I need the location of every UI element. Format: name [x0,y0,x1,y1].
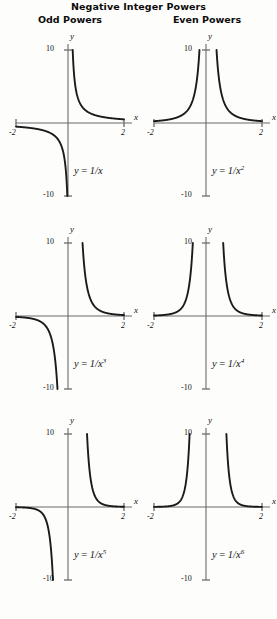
x-tick-label-min: -2 [147,321,154,330]
curve-branch [217,50,262,121]
x-tick-label-min: -2 [9,128,16,137]
y-tick-label-max: 10 [184,428,192,437]
equation-label: y = 1/x5 [74,549,106,560]
y-tick-label-max: 10 [46,44,54,53]
y-axis-label: y [208,31,212,41]
x-axis-label: x [272,305,276,315]
plot-svg [138,28,277,218]
y-tick-label-min: -10 [43,383,54,392]
curve-branch [16,317,57,389]
equation-label: y = 1/x [74,165,103,176]
y-tick-label-max: 10 [184,237,192,246]
curve-branch [154,243,193,316]
equation-label: y = 1/x3 [74,358,106,369]
equation-label: y = 1/x2 [212,165,244,176]
curve-branch [223,243,262,316]
column-heading-even: Even Powers [147,14,267,25]
curve-branch [16,127,67,196]
plot-cell: xy-2210-10y = 1/x3 [0,221,139,411]
x-tick-label-max: 2 [259,321,263,330]
page-title: Negative Integer Powers [0,1,277,12]
plot-cell: xy-2210-10y = 1/x [0,28,139,218]
x-tick-label-min: -2 [147,512,154,521]
column-heading-odd: Odd Powers [10,14,130,25]
curve-branch [154,50,199,121]
y-axis-label: y [208,224,212,234]
curve-branch [154,434,190,507]
plot-cell: xy-2210-10y = 1/x4 [138,221,277,411]
curve-branch [16,507,53,580]
plot-cell: xy-2210-10y = 1/x2 [138,28,277,218]
plot-svg [0,28,139,218]
plot-svg [138,412,277,602]
y-tick-label-min: -10 [181,190,192,199]
y-axis-label: y [70,415,74,425]
curve-branch [83,243,124,315]
y-tick-label-min: -10 [181,383,192,392]
x-tick-label-max: 2 [259,512,263,521]
y-tick-label-min: -10 [43,190,54,199]
x-tick-label-max: 2 [121,321,125,330]
x-tick-label-max: 2 [121,512,125,521]
y-tick-label-max: 10 [46,237,54,246]
plot-svg [138,221,277,411]
x-axis-label: x [272,496,276,506]
x-tick-label-max: 2 [259,128,263,137]
equation-label: y = 1/x6 [212,549,244,560]
plot-svg [0,221,139,411]
figure-negative-integer-powers: Negative Integer Powers Odd Powers Even … [0,0,277,619]
curve-branch [87,434,124,507]
plot-svg [0,412,139,602]
x-tick-label-min: -2 [9,321,16,330]
y-axis-label: y [70,31,74,41]
plot-cell: xy-2210-10y = 1/x6 [138,412,277,602]
y-tick-label-min: -10 [181,574,192,583]
y-axis-label: y [70,224,74,234]
y-tick-label-max: 10 [46,428,54,437]
x-tick-label-max: 2 [121,128,125,137]
y-tick-label-max: 10 [184,44,192,53]
y-axis-label: y [208,415,212,425]
x-axis-label: x [272,112,276,122]
y-tick-label-min: -10 [43,574,54,583]
x-tick-label-min: -2 [9,512,16,521]
curve-branch [226,434,262,507]
x-tick-label-min: -2 [147,128,154,137]
plot-cell: xy-2210-10y = 1/x5 [0,412,139,602]
equation-label: y = 1/x4 [212,358,244,369]
curve-branch [73,50,124,119]
